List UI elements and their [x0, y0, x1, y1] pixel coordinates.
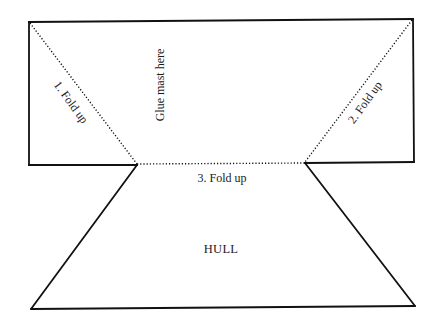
sail-panel-right-edge	[413, 19, 414, 162]
hull-bottom-edge	[31, 306, 415, 309]
sail-panel-top-edge	[29, 19, 413, 22]
hull-label: HULL	[204, 242, 239, 256]
sail-panel-bottom-right-edge	[305, 162, 414, 163]
fold-1-label: 1. Fold up	[51, 78, 91, 126]
fold-2-label: 2. Fold up	[345, 78, 385, 126]
sail-panel	[29, 19, 414, 165]
glue-mast-label: Glue mast here	[153, 49, 167, 122]
hull	[31, 163, 415, 309]
fold-line-3	[137, 163, 305, 164]
boat-template-diagram: Glue mast here 1. Fold up 2. Fold up 3. …	[0, 0, 439, 332]
hull-right-edge	[305, 163, 415, 306]
fold-line-2	[305, 20, 412, 162]
hull-left-edge	[31, 165, 137, 309]
fold-line-1	[30, 23, 137, 164]
fold-3-label: 3. Fold up	[197, 171, 246, 185]
